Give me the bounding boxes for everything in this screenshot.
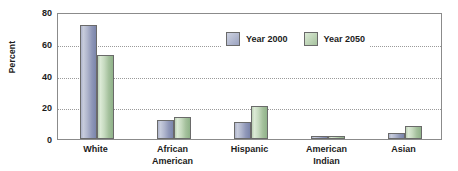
x-tick-label: White — [83, 144, 108, 156]
bar-year-2000 — [388, 133, 405, 139]
legend-swatch-year-2000 — [226, 32, 240, 46]
chart-legend: Year 2000Year 2050 — [222, 30, 369, 48]
y-axis-title: Percent — [7, 27, 17, 87]
bar-year-2000 — [157, 120, 174, 139]
bar-year-2050 — [251, 106, 268, 139]
x-axis-tick-labels: WhiteAfrican AmericanHispanicAmerican In… — [57, 144, 442, 171]
bar-year-2000 — [80, 25, 97, 139]
y-tick-label: 20 — [28, 104, 52, 113]
y-tick-label: 60 — [28, 40, 52, 49]
legend-swatch-year-2050 — [304, 32, 318, 46]
bar-year-2000 — [234, 122, 251, 139]
legend-label: Year 2050 — [324, 34, 366, 44]
y-tick-label: 0 — [28, 136, 52, 145]
bar-group — [80, 14, 114, 139]
y-tick-label: 40 — [28, 72, 52, 81]
bar-group — [157, 14, 191, 139]
bar-group — [388, 14, 422, 139]
legend-entry: Year 2000 — [226, 32, 288, 46]
legend-label: Year 2000 — [246, 34, 288, 44]
legend-entry: Year 2050 — [304, 32, 366, 46]
y-tick-label: 80 — [28, 9, 52, 18]
bar-year-2050 — [405, 126, 422, 139]
x-tick-label: American Indian — [306, 144, 347, 167]
x-tick-label: Asian — [391, 144, 416, 156]
bar-year-2000 — [311, 136, 328, 139]
bar-chart-figure: Percent 806040200 Year 2000Year 2050 Whi… — [0, 0, 458, 171]
bar-year-2050 — [174, 117, 191, 139]
bar-year-2050 — [328, 136, 345, 139]
x-tick-label: African American — [152, 144, 193, 167]
bar-year-2050 — [97, 55, 114, 139]
y-axis-tick-labels: 806040200 — [28, 0, 52, 171]
x-tick-label: Hispanic — [231, 144, 269, 156]
